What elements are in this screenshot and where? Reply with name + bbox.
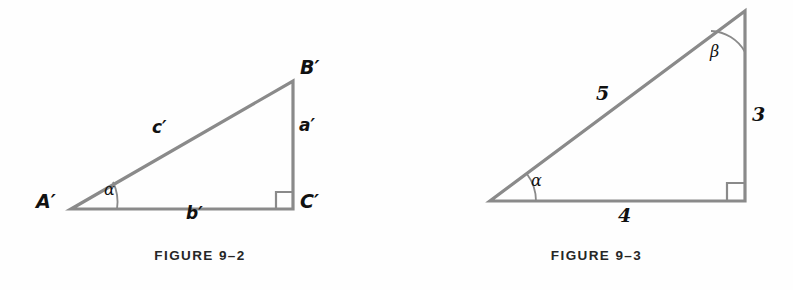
vertex-label-c-prime: C′ xyxy=(300,192,319,211)
figure-9-3-drawing xyxy=(400,0,793,250)
right-angle-marker xyxy=(727,183,745,201)
side-label-b-prime: b′ xyxy=(186,205,203,222)
figure-9-3-caption: FIGURE 9–3 xyxy=(400,248,793,263)
angle-label-alpha: α xyxy=(531,173,542,189)
figure-9-2-caption: FIGURE 9–2 xyxy=(0,248,400,263)
angle-label-alpha: α xyxy=(104,182,115,198)
side-label-base-4: 4 xyxy=(618,206,631,225)
angle-label-beta: β xyxy=(710,44,719,60)
side-label-vertical-3: 3 xyxy=(752,105,765,124)
vertex-label-b-prime: B′ xyxy=(300,58,320,77)
right-angle-marker xyxy=(276,192,293,209)
side-label-hypotenuse-5: 5 xyxy=(596,84,609,103)
side-label-a-prime: a′ xyxy=(299,117,315,134)
vertex-label-a-prime: A′ xyxy=(36,192,56,211)
triangle-outline xyxy=(490,11,745,201)
figure-9-3-panel: 5 3 4 α β FIGURE 9–3 xyxy=(400,0,793,290)
side-label-c-prime: c′ xyxy=(152,119,167,136)
figure-9-2-panel: A′ B′ C′ c′ a′ b′ α FIGURE 9–2 xyxy=(0,0,400,290)
